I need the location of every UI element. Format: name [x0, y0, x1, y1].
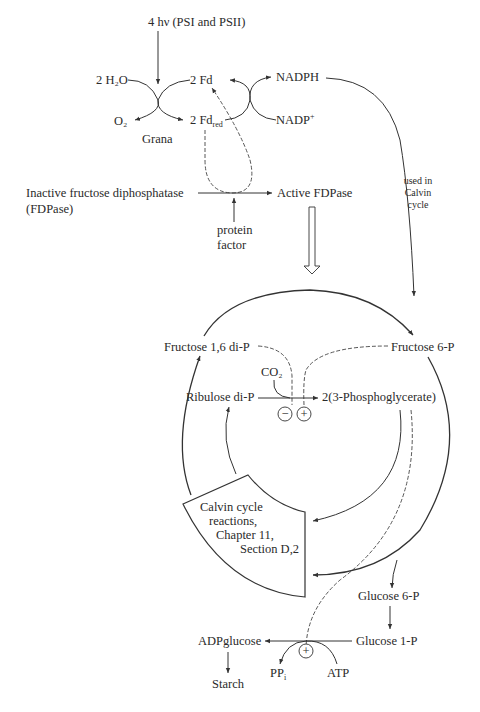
light-input-label: 4 hν (PSI and PSII): [148, 15, 245, 29]
pga-activation-dashed: [306, 410, 412, 650]
co2-input-curve: [274, 380, 290, 398]
nadph-note-line1: used in: [404, 175, 433, 186]
fructose-16-label: Fructose 1,6 di-P: [164, 340, 250, 354]
calvin-box-line3: Chapter 11,: [216, 528, 274, 542]
grana-label: Grana: [142, 132, 173, 146]
calvin-box-line1: Calvin cycle: [200, 500, 263, 514]
fd-oxidized-label: 2 Fd: [190, 73, 213, 87]
nadph-note-line2: Calvin: [405, 187, 432, 198]
starch-label: Starch: [212, 677, 245, 691]
minus-sign: −: [281, 407, 288, 421]
ppi-label: PPi: [270, 666, 287, 682]
pga-to-box-arrow: [313, 410, 401, 521]
calvin-box-line4: Section D,2: [240, 542, 299, 556]
ribulose-label: Ribulose di-P: [186, 390, 254, 404]
plus-sign: +: [300, 407, 307, 421]
g6p-label: Glucose 6-P: [358, 589, 419, 603]
diagram-canvas: 4 hν (PSI and PSII) 2 H₂O O₂ Grana 2 Fd …: [0, 0, 480, 712]
fd-thioredoxin-loop: [205, 88, 252, 193]
oxygen-label: O₂: [114, 114, 127, 128]
atp-label: ATP: [327, 666, 349, 680]
outer-cycle-top-arc: [204, 290, 413, 336]
protein-factor-label: protein: [217, 223, 253, 237]
hollow-down-arrow: [304, 207, 320, 274]
pga-label: 2(3-Phosphoglycerate): [322, 390, 436, 404]
calvin-box-line2: reactions,: [209, 514, 257, 528]
co2-label: CO₂: [261, 365, 283, 379]
adpglucose-label: ADPglucose: [198, 634, 262, 648]
box-to-ribulose-arrow: [226, 407, 236, 474]
fructose-6p-label: Fructose 6-P: [391, 340, 455, 354]
nadph-note-line3: cycle: [407, 199, 429, 210]
adpglucose-plus-sign: +: [302, 644, 309, 658]
nadph-label: NADPH: [276, 70, 319, 84]
inactive-fdpase-label: Inactive fructose diphosphatase: [26, 186, 184, 200]
f6p-to-g6p-arrow: [392, 560, 397, 588]
active-fdpase-label: Active FDPase: [277, 186, 353, 200]
water-label: 2 H₂O: [96, 73, 128, 87]
fd-reduced-label: 2 Fdred: [190, 113, 223, 129]
protein-factor-label-2: factor: [217, 238, 247, 252]
outer-cycle-left-arc: [182, 356, 200, 495]
nadp-reduction-arc: [250, 77, 276, 120]
g1p-label: Glucose 1-P: [356, 634, 417, 648]
fd-reduction-arc: [158, 80, 190, 120]
nadp-label: NADP+: [276, 112, 315, 127]
inactive-fdpase-label-2: (FDPase): [26, 202, 73, 216]
water-to-oxygen-arc: [128, 80, 159, 120]
